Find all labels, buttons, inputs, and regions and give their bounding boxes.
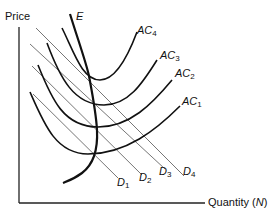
d1-label-sub: 1 [125,181,129,190]
ac3-label-sub: 3 [175,54,179,63]
x-axis-label: Quantity (N) [208,197,267,208]
ac2-label: AC2 [175,68,195,81]
e-label-text: E [76,10,83,22]
d3-label: D3 [159,166,171,179]
cost-demand-diagram: Price Quantity (N) E AC4 AC3 AC2 AC1 D1 … [0,0,273,210]
quantity-var: N [256,196,264,208]
ac1-label: AC1 [182,96,202,109]
ac1-curve [30,92,180,154]
ac2-label-text: AC [175,67,190,79]
demand-line-d3 [30,44,165,169]
d4-label-sub: 4 [191,170,195,179]
e-curve-label: E [76,11,83,22]
d4-label-text: D [183,165,191,177]
d1-label: D1 [117,177,129,190]
y-axis-label: Price [5,11,30,22]
d1-label-text: D [117,176,125,188]
ac1-label-sub: 1 [197,100,201,109]
ac2-label-sub: 2 [190,72,194,81]
average-cost-curves [30,28,180,154]
ac4-label: AC4 [137,25,157,38]
quantity-label-close: ) [264,196,268,208]
d4-label: D4 [183,166,195,179]
ac2-curve [38,65,172,127]
ac3-curve [47,43,157,105]
demand-line-d1 [33,94,118,178]
d2-label-text: D [139,171,147,183]
ac4-curve [62,28,137,80]
ac4-label-text: AC [137,24,152,36]
ac3-label: AC3 [160,50,180,63]
ac1-label-text: AC [182,95,197,107]
ac3-label-text: AC [160,49,175,61]
d2-label-sub: 2 [147,176,151,185]
price-label-text: Price [5,10,30,22]
ac4-label-sub: 4 [152,29,156,38]
d2-label: D2 [139,172,151,185]
d3-label-sub: 3 [167,170,171,179]
d3-label-text: D [159,165,167,177]
quantity-label-text: Quantity ( [208,196,256,208]
